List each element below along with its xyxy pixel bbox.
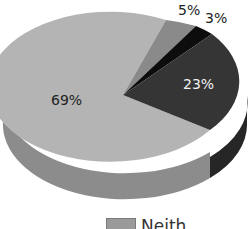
label-69: 69% — [51, 92, 82, 108]
label-5: 5% — [178, 2, 200, 18]
pie-chart — [0, 0, 250, 229]
label-23: 23% — [183, 76, 214, 92]
legend-swatch-neither — [106, 218, 136, 229]
label-3: 3% — [205, 10, 227, 26]
chart-legend: Neith — [106, 216, 250, 229]
legend-label-neither: Neith — [141, 216, 186, 229]
